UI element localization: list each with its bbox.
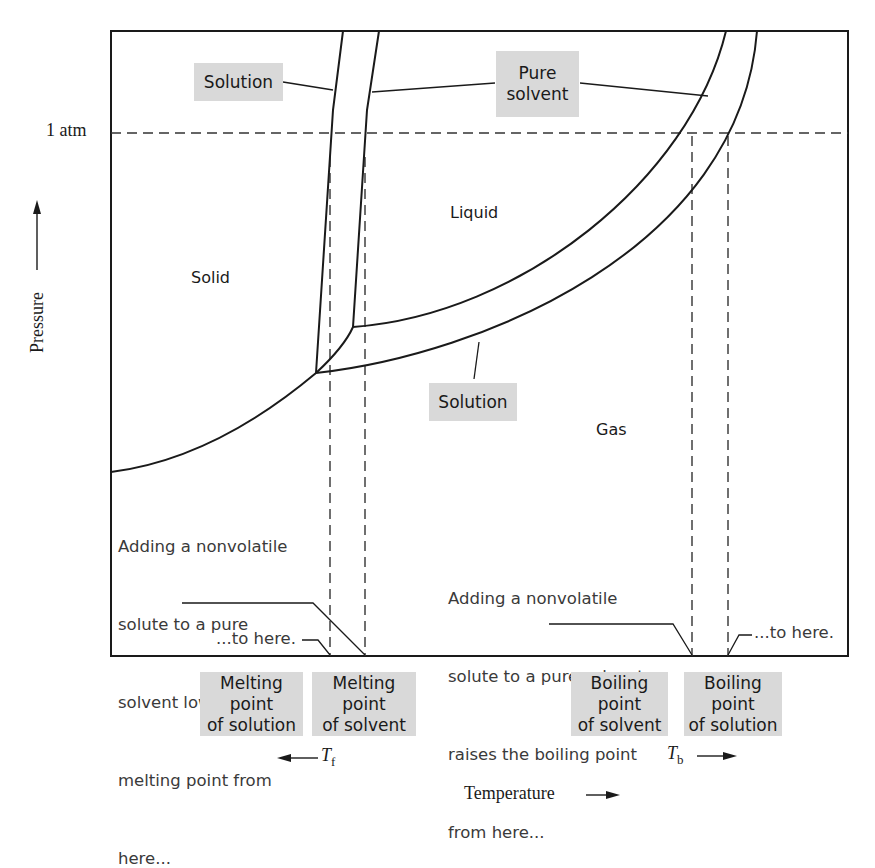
right-arrow-icon [723,752,737,760]
note-melting-line1: Adding a nonvolatile [118,534,287,560]
label-line1: Melting point [200,673,303,715]
label-boiling-point-solution: Boiling point of solution [684,672,782,736]
label-line2: of solvent [578,715,662,736]
note-melting-line4: melting point from [118,768,287,794]
sublimation-curve [111,373,316,472]
callout-solution-bottom: Solution [429,383,517,421]
tf-sub: f [331,754,335,769]
region-label-solid: Solid [191,268,230,287]
label-line2: of solution [688,715,777,736]
region-label-liquid: Liquid [450,203,498,222]
callout-solution-bottom-text: Solution [438,392,507,413]
leader-solution-top [283,82,333,90]
label-boiling-point-solvent: Boiling point of solvent [571,672,668,736]
label-line2: of solvent [322,715,406,736]
tf-label: Tf [321,745,335,770]
pressure-axis-label: Pressure [27,292,48,353]
region-label-gas: Gas [596,420,627,439]
up-arrow-icon [33,200,41,214]
tf-main: T [321,745,331,765]
callout-pure-solvent-line2: solvent [507,84,569,105]
leader-solution-bottom [474,342,479,379]
note-boiling-line3: raises the boiling point [448,742,644,768]
tb-sub: b [677,752,684,767]
callout-solution-top: Solution [194,63,283,101]
label-line2: of solution [207,715,296,736]
sublimation-curve-solvent [316,327,353,373]
leader-pure-solvent-right [580,83,708,96]
note-boiling-to-here: ...to here. [754,620,834,646]
one-atm-tick-label: 1 atm [46,120,87,141]
tb-label: Tb [667,743,684,768]
tb-main: T [667,743,677,763]
note-boiling-line4: from here... [448,820,644,846]
label-line1: Boiling point [571,673,668,715]
label-line1: Melting point [312,673,416,715]
label-melting-point-solution: Melting point of solution [200,672,303,736]
pointer-melting-to-here [302,640,330,655]
callout-pure-solvent: Pure solvent [496,51,579,117]
note-melting-to-here: ...to here. [216,626,296,652]
callout-pure-solvent-line1: Pure [519,63,557,84]
pointer-boiling-to-here [728,635,752,655]
temperature-axis-label: Temperature [464,783,555,804]
leader-pure-solvent-left [372,83,495,92]
note-boiling-line1: Adding a nonvolatile [448,586,644,612]
callout-solution-top-text: Solution [204,72,273,93]
label-melting-point-solvent: Melting point of solvent [312,672,416,736]
note-melting-line5: here... [118,846,287,868]
melting-line-pure-solvent [353,31,379,327]
label-line1: Boiling point [684,673,782,715]
